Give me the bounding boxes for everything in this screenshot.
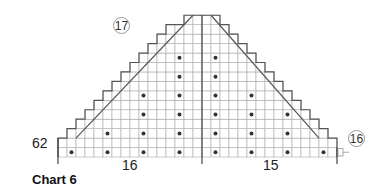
- right-circle-marker: 16: [348, 130, 365, 147]
- right-stitch-count: 15: [263, 157, 279, 173]
- chart-title: Chart 6: [32, 172, 77, 187]
- left-stitch-count: 16: [122, 157, 138, 173]
- top-circle-marker: 17: [113, 17, 130, 34]
- row-start-label: 62: [32, 135, 48, 151]
- knitting-chart-grid: [0, 0, 378, 196]
